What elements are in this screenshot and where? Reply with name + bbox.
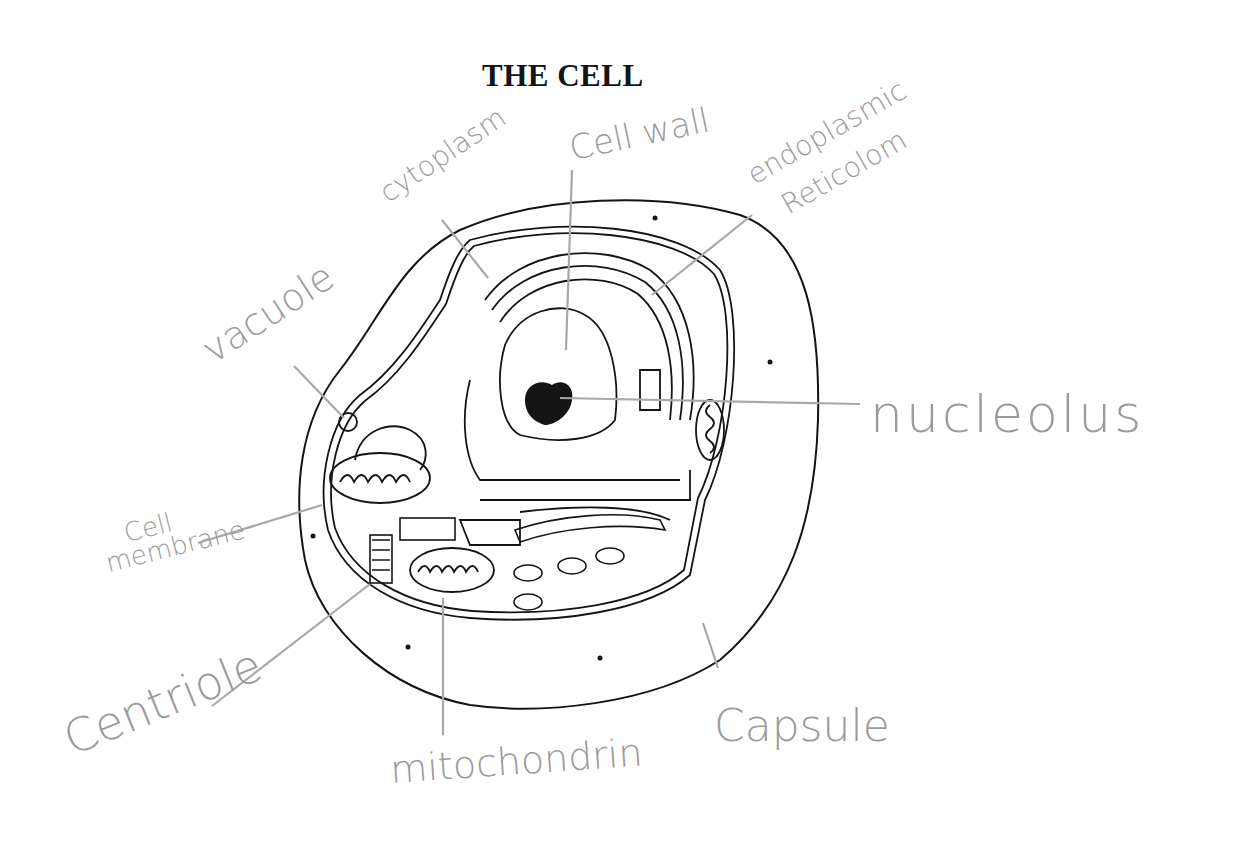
capsule-outline bbox=[299, 200, 818, 708]
leader-lines bbox=[198, 170, 860, 735]
label-nucleolus: nucleolus bbox=[870, 384, 1144, 444]
vacuole bbox=[339, 413, 426, 470]
label-capsule: Capsule bbox=[714, 700, 890, 751]
capsule-leader bbox=[703, 623, 718, 668]
golgi-vesicles bbox=[514, 515, 665, 610]
endoplasmic-leader bbox=[652, 215, 752, 295]
